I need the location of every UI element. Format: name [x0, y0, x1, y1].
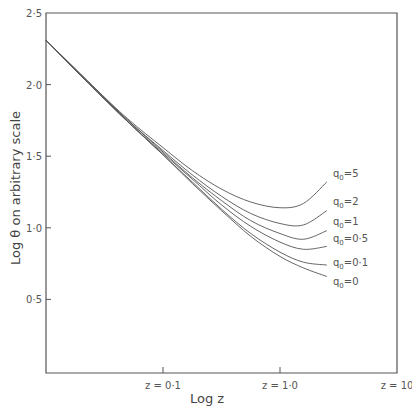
curve-label: q0=0	[333, 276, 359, 290]
curve-q0-0	[46, 40, 327, 276]
curves	[46, 40, 327, 276]
curve-q0-0-1	[46, 40, 327, 265]
curve-q0-5	[46, 40, 327, 208]
curve-q0-0-5	[46, 40, 327, 249]
curve-q0-2	[46, 40, 327, 226]
axes-box	[46, 13, 397, 373]
plot-frame	[46, 13, 397, 373]
chart-canvas: 2·52·01·51·00·5 z = 0·1z = 1·0z = 10 q0=…	[0, 0, 412, 416]
x-tick-label: z = 10	[381, 380, 412, 391]
y-tick-label: 0·5	[26, 294, 42, 305]
y-tick-label: 1·0	[26, 223, 42, 234]
y-tick-label: 1·5	[26, 151, 42, 162]
y-axis-ticks: 2·52·01·51·00·5	[26, 8, 51, 305]
curve-label: q0=0·5	[333, 233, 368, 247]
x-tick-label: z = 1·0	[262, 380, 298, 391]
curve-label: q0=2	[333, 196, 359, 210]
curve-labels: q0=5q0=2q0=1q0=0·5q0=0·1q0=0	[333, 168, 368, 289]
y-tick-label: 2·0	[26, 80, 42, 91]
y-tick-label: 2·5	[26, 8, 42, 19]
curve-label: q0=1	[333, 216, 359, 230]
x-axis-title: Log z	[190, 391, 224, 406]
curve-q0-1	[46, 40, 327, 239]
x-tick-label: z = 0·1	[145, 380, 181, 391]
curve-label: q0=0·1	[333, 257, 368, 271]
y-axis-title: Log θ on arbitrary scale	[8, 111, 23, 265]
curve-label: q0=5	[333, 168, 359, 182]
x-axis-ticks: z = 0·1z = 1·0z = 10	[145, 367, 412, 391]
